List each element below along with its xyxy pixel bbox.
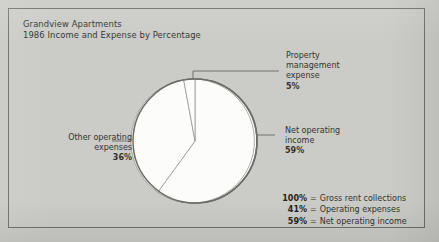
figure-frame: Grandview Apartments 1986 Income and Exp…: [8, 8, 425, 228]
callout-property-management: Property management expense 5%: [286, 51, 340, 92]
legend-row-2-pct: 59%: [281, 216, 307, 227]
legend-row-0-text: Gross rent collections: [320, 193, 406, 204]
legend-row: 100% = Gross rent collections: [281, 193, 407, 204]
callout-property-value: 5%: [286, 82, 340, 92]
legend-row-1-pct: 41%: [281, 204, 307, 215]
figure-page: Grandview Apartments 1986 Income and Exp…: [0, 0, 439, 242]
callout-other-line-2: expenses: [68, 143, 132, 153]
legend: 100% = Gross rent collections 41% = Oper…: [281, 193, 407, 227]
legend-row-2-text: Net operating income: [320, 216, 407, 227]
callout-net-operating-income: Net operating income 59%: [285, 126, 340, 157]
callout-net-line-1: Net operating: [285, 126, 340, 136]
pie-slices: [131, 79, 257, 203]
callout-property-line-3: expense: [286, 71, 340, 81]
legend-row-0-pct: 100%: [281, 193, 307, 204]
callout-net-value: 59%: [285, 146, 340, 156]
legend-row: 59% = Net operating income: [281, 216, 407, 227]
legend-row-1-equals: =: [307, 204, 320, 215]
callout-property-line-2: management: [286, 61, 340, 71]
callout-other-operating-expenses: Other operating expenses 36%: [68, 133, 132, 164]
callout-net-line-2: income: [285, 136, 340, 146]
callout-property-line-1: Property: [286, 51, 340, 61]
legend-row-0-equals: =: [307, 193, 320, 204]
callout-other-value: 36%: [68, 153, 132, 163]
legend-row: 41% = Operating expenses: [281, 204, 407, 215]
legend-row-2-equals: =: [307, 216, 320, 227]
callout-other-line-1: Other operating: [68, 133, 132, 143]
legend-row-1-text: Operating expenses: [320, 204, 400, 215]
